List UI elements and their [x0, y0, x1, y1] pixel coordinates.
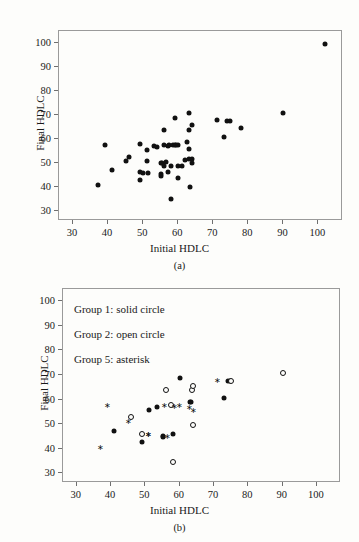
data-point — [158, 173, 163, 178]
data-point — [190, 123, 195, 128]
y-tick-label: 90 — [45, 319, 56, 330]
data-point — [188, 185, 193, 190]
panel-b: ∗∗∗∗∗∗∗∗∗∗∗∗ 304050607080901003040506070… — [0, 271, 359, 542]
x-tick-label: 40 — [102, 227, 113, 238]
data-point — [155, 405, 160, 410]
data-point: ∗ — [190, 407, 197, 414]
x-tick — [144, 482, 145, 486]
x-tick — [110, 482, 111, 486]
x-tick-label: 40 — [105, 489, 116, 500]
y-tick — [58, 399, 62, 400]
x-tick — [177, 220, 178, 224]
y-tick — [54, 114, 58, 115]
y-tick-label: 40 — [45, 442, 56, 453]
y-tick — [54, 138, 58, 139]
x-tick — [247, 482, 248, 486]
data-point: ∗ — [104, 401, 111, 408]
data-point — [163, 387, 169, 393]
y-tick — [54, 90, 58, 91]
panel-caption-a: (a) — [0, 260, 359, 271]
x-tick — [76, 482, 77, 486]
data-point — [112, 429, 117, 434]
data-point — [144, 159, 149, 164]
data-point — [323, 42, 328, 47]
data-point — [169, 164, 174, 169]
y-tick-label: 30 — [41, 205, 52, 216]
x-axis-title-a: Initial HDLC — [0, 242, 359, 254]
data-point: ∗ — [97, 443, 104, 450]
data-point — [176, 143, 181, 148]
x-tick-label: 50 — [137, 227, 148, 238]
data-point: ∗ — [145, 430, 152, 437]
data-point — [177, 375, 182, 380]
data-point — [146, 170, 151, 175]
data-point — [139, 439, 144, 444]
legend-line-1: Group 1: solid circle — [74, 304, 165, 315]
x-tick — [107, 220, 108, 224]
data-point: ∗ — [125, 418, 132, 425]
data-point — [170, 459, 176, 465]
panel-caption-b: (b) — [0, 522, 359, 533]
x-tick — [316, 482, 317, 486]
data-point — [239, 126, 244, 131]
x-tick — [282, 482, 283, 486]
data-point: ∗ — [214, 377, 221, 384]
x-tick — [72, 220, 73, 224]
y-axis-title-a: Final HDLC — [34, 83, 46, 163]
x-tick-label: 90 — [276, 489, 287, 500]
y-tick-label: 30 — [45, 467, 56, 478]
data-point — [228, 118, 233, 123]
x-tick-label: 60 — [172, 227, 183, 238]
data-point — [186, 146, 191, 151]
x-tick — [282, 220, 283, 224]
data-point — [162, 128, 167, 133]
data-point — [228, 378, 234, 384]
y-tick — [54, 186, 58, 187]
y-tick — [54, 42, 58, 43]
data-point — [176, 176, 181, 181]
data-point — [102, 142, 107, 147]
data-point — [163, 160, 168, 165]
x-tick-label: 80 — [242, 489, 253, 500]
y-axis-title-b: Final HDLC — [38, 343, 50, 423]
data-point — [214, 118, 219, 123]
data-point — [146, 408, 151, 413]
data-point — [186, 111, 191, 116]
x-tick-label: 30 — [70, 489, 81, 500]
data-point — [281, 111, 286, 116]
x-tick-label: 80 — [242, 227, 253, 238]
plot-frame-a — [58, 30, 342, 220]
data-point: ∗ — [164, 432, 171, 439]
y-tick — [58, 374, 62, 375]
x-tick — [247, 220, 248, 224]
data-point — [109, 168, 114, 173]
data-point — [155, 144, 160, 149]
x-tick-label: 100 — [310, 227, 326, 238]
x-tick — [213, 482, 214, 486]
plot-area-a — [59, 31, 341, 219]
x-tick — [142, 220, 143, 224]
y-tick — [58, 472, 62, 473]
data-point — [144, 147, 149, 152]
data-point — [141, 170, 146, 175]
x-tick-label: 30 — [67, 227, 78, 238]
legend-line-3: Group 5: asterisk — [74, 354, 150, 365]
data-point — [190, 422, 196, 428]
x-tick — [212, 220, 213, 224]
data-point — [127, 154, 132, 159]
x-tick-label: 50 — [139, 489, 150, 500]
data-point — [222, 395, 227, 400]
data-point — [179, 164, 184, 169]
y-tick — [54, 210, 58, 211]
x-tick-label: 60 — [173, 489, 184, 500]
y-tick-label: 100 — [39, 295, 55, 306]
y-tick — [58, 300, 62, 301]
data-point — [190, 383, 196, 389]
data-point — [221, 135, 226, 140]
data-point: ∗ — [161, 402, 168, 409]
data-point: ∗ — [176, 401, 183, 408]
y-tick — [58, 423, 62, 424]
x-tick — [179, 482, 180, 486]
data-point — [137, 178, 142, 183]
plot-frame-b: ∗∗∗∗∗∗∗∗∗∗∗∗ — [62, 288, 340, 482]
